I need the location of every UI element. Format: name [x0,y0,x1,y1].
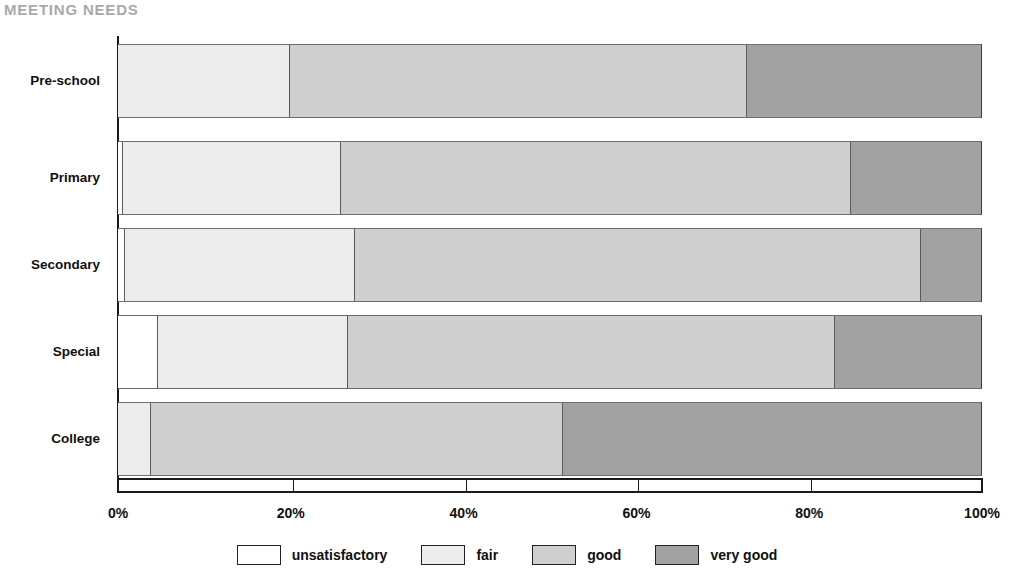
bar-segment-very-good [850,142,981,214]
x-axis-tick-divider [293,480,294,491]
bar-segment-very-good [746,45,981,117]
legend-item[interactable]: fair [421,545,498,565]
bar-row [118,315,982,389]
x-axis-tick-label: 40% [450,505,478,521]
chart-title: MEETING NEEDS [4,1,139,18]
x-axis-tick-label: 0% [108,505,128,521]
bar-segment-fair [118,403,150,475]
x-axis-band [117,478,983,493]
bar-segment-good [354,229,919,301]
bar-segment-good [289,45,746,117]
bar-segment-good [340,142,850,214]
category-axis-labels: Pre-school Primary Secondary Special Col… [0,38,108,478]
bar-segment-unsatisfactory [118,316,157,388]
category-label-secondary: Secondary [0,257,100,272]
legend-label: unsatisfactory [292,547,388,563]
x-axis-tick-label: 100% [964,505,1000,521]
bar-segment-good [347,316,835,388]
x-axis-tick-divider [811,480,812,491]
legend-swatch [532,545,576,565]
legend-item[interactable]: unsatisfactory [237,545,388,565]
chart-legend: unsatisfactoryfairgoodvery good [0,538,1014,572]
category-label-special: Special [0,344,100,359]
legend-label: good [587,547,621,563]
meeting-needs-chart: MEETING NEEDS Pre-school Primary Seconda… [0,0,1014,584]
legend-swatch [655,545,699,565]
x-axis-tick-label: 20% [277,505,305,521]
legend-item[interactable]: good [532,545,621,565]
category-label-primary: Primary [0,170,100,185]
legend-swatch [421,545,465,565]
bar-segment-very-good [834,316,981,388]
x-axis-tick-labels: 0%20%40%60%80%100% [0,505,1014,529]
legend-label: very good [710,547,777,563]
bar-segment-very-good [562,403,981,475]
bar-segment-fair [124,229,354,301]
category-label-college: College [0,431,100,446]
plot-area [118,38,982,478]
bar-row [118,228,982,302]
legend-swatch [237,545,281,565]
legend-item[interactable]: very good [655,545,777,565]
bar-segment-good [150,403,563,475]
legend-label: fair [476,547,498,563]
x-axis-tick-label: 80% [795,505,823,521]
bar-segment-fair [157,316,347,388]
category-label-pre-school: Pre-school [0,73,100,88]
bar-row [118,402,982,476]
x-axis-tick-divider [466,480,467,491]
x-axis-tick-divider [638,480,639,491]
x-axis-tick-label: 60% [622,505,650,521]
bar-segment-fair [118,45,289,117]
bar-segment-fair [122,142,339,214]
bar-row [118,44,982,118]
bar-row [118,141,982,215]
bar-segment-very-good [920,229,981,301]
